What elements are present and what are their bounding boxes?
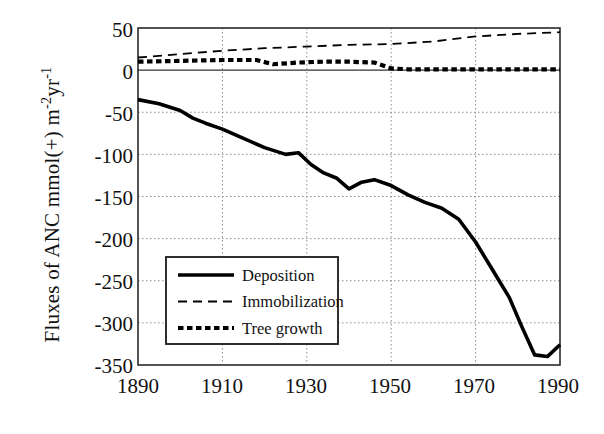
series-line-immobilization (138, 32, 560, 57)
series-line-tree-growth (138, 60, 560, 69)
legend-label: Immobilization (242, 292, 344, 311)
plot-area: DepositionImmobilizationTree growth (0, 0, 604, 434)
legend: DepositionImmobilizationTree growth (166, 257, 344, 344)
figure-container: Fluxes of ANC mmol(+) m-2yr-1 50 0 -50 -… (0, 0, 604, 434)
legend-label: Deposition (242, 266, 314, 285)
legend-label: Tree growth (242, 319, 323, 338)
